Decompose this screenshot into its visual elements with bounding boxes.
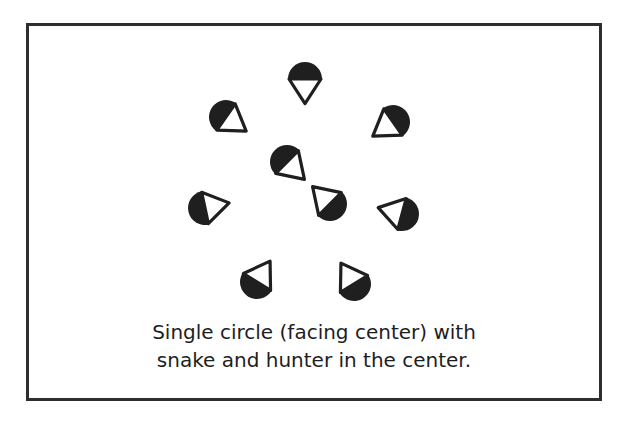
facing-arrow-icon	[202, 187, 233, 223]
center-figure	[301, 175, 354, 228]
caption-line-1: Single circle (facing center) with	[26, 318, 602, 346]
facing-arrow-icon	[289, 79, 321, 104]
figure-body-icon	[288, 62, 322, 79]
person-figure	[374, 191, 423, 235]
person-figure	[288, 62, 322, 104]
caption-line-2: snake and hunter in the center.	[26, 346, 602, 374]
person-figure	[202, 93, 256, 145]
figure-layer	[185, 62, 423, 307]
person-figure	[363, 98, 417, 150]
person-figure	[327, 254, 378, 307]
person-figure	[234, 252, 285, 305]
person-figure	[185, 186, 233, 228]
diagram-caption: Single circle (facing center) with snake…	[26, 318, 602, 374]
center-figure	[263, 138, 316, 191]
